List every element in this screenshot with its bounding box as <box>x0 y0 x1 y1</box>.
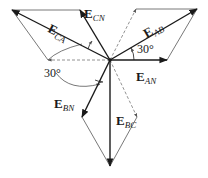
label-e-cn-main: E <box>84 6 93 21</box>
label-e-bc-main: E <box>116 113 125 128</box>
label-e-bn: EBN <box>54 95 74 113</box>
label-e-cn: ECN <box>84 5 105 23</box>
parallelogram-ab-right <box>167 9 197 60</box>
phasor-e-bn <box>82 60 110 117</box>
label-e-bc-sub: BC <box>125 120 137 130</box>
phasors <box>12 9 197 166</box>
parallelogram-bc-left <box>82 117 110 166</box>
label-e-an: EAN <box>136 68 156 86</box>
angle-label-30-right: 30° <box>137 43 154 55</box>
label-e-bn-sub: BN <box>63 103 75 113</box>
angle-arc-small-ca <box>88 41 92 49</box>
label-e-an-main: E <box>136 69 145 84</box>
label-e-an-sub: AN <box>145 76 157 86</box>
angle-label-30-left: 30° <box>44 67 61 79</box>
label-e-cn-sub: CN <box>93 13 105 23</box>
label-e-bc: EBC <box>116 112 136 130</box>
label-e-bn-main: E <box>54 96 63 111</box>
parallelogram-ca-left <box>12 10 48 60</box>
phasor-diagram <box>0 0 208 178</box>
neutral-point <box>108 58 112 62</box>
angle-arc-upper-left <box>48 44 82 60</box>
angle-arc-30-left <box>56 73 100 86</box>
construction-lines <box>12 9 197 166</box>
dashed-reference-down-right <box>110 60 137 117</box>
angle-arc-30-right <box>131 48 134 60</box>
